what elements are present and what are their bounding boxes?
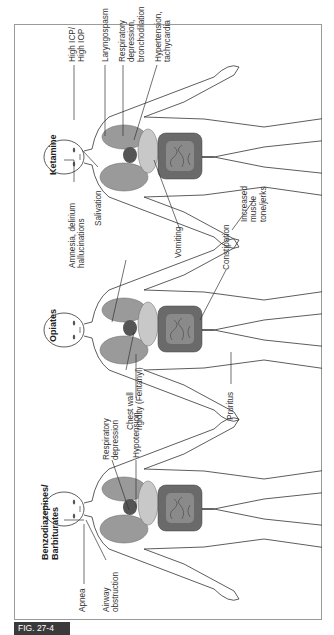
panel-title-benzodiazepines: Benzodiazepines/ Barbiturates bbox=[40, 484, 61, 560]
label-airway-obstruction: Airway obstruction bbox=[102, 572, 121, 612]
label-benzo-respiratory-depression: Respiratory depression bbox=[102, 418, 121, 460]
label-high-icp-iop: High ICP/ High IOP bbox=[68, 27, 87, 62]
label-constipation: Constipation bbox=[222, 224, 231, 270]
label-increased-muscle-tone: Increased muscle tone/jerks bbox=[240, 186, 268, 222]
label-chest-wall-rigidity: Chest wall rigidity (Fentanyl) bbox=[126, 367, 145, 430]
rotated-diagram-canvas: Benzodiazepines/ Barbiturates Opiates Ke… bbox=[14, 24, 322, 620]
label-amnesia-delirium: Amnesia, delirium hallucinations bbox=[68, 203, 87, 268]
label-salivation: Salivation bbox=[94, 190, 103, 226]
panel-title-opiates: Opiates bbox=[48, 309, 58, 342]
label-pruritus: Pruritus bbox=[226, 392, 235, 420]
label-hypertension-tachycardia: Hypertension, tachycardia bbox=[154, 11, 173, 62]
figure-number-tag: FIG. 27-4 bbox=[14, 622, 70, 635]
label-apnea: Apnea bbox=[78, 588, 87, 612]
label-ketamine-respiratory-depression: Respiratory depression, bronchodilation bbox=[118, 6, 146, 62]
label-laryngospasm: Laryngospasm bbox=[101, 8, 110, 62]
label-vomiting: Vomiting bbox=[174, 227, 183, 258]
panel-title-ketamine: Ketamine bbox=[48, 134, 58, 175]
benzo-body-figure bbox=[44, 418, 322, 601]
